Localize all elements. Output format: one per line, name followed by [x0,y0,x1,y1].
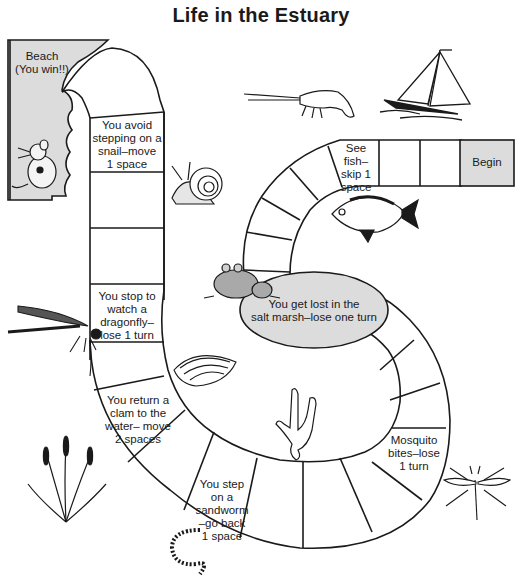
cattails-icon [28,436,106,522]
clam-label-line: You return a [98,394,178,407]
dragonfly-label-line: watch a [90,303,164,316]
marsh-label-line: salt marsh–lose one turn [244,311,384,324]
coral-icon [276,389,316,460]
marsh-label-line: You get lost in the [244,298,384,311]
sandworm-label-line: You step [184,478,260,491]
clam-label-line: water– move [98,420,178,433]
marsh-space-label: You get lost in the salt marsh–lose one … [244,298,384,324]
clam-space-label: You return a clam to the water– move 2 s… [98,394,178,446]
dragonfly-label-line: lose 1 turn [90,329,164,342]
mosquito-icon [444,466,510,520]
finish-label-line: Beach [12,50,72,63]
snail-space-label: You avoid stepping on a snail–move 1 spa… [90,119,164,171]
fish-space-label: See fish– skip 1 space [334,142,378,194]
snail-icon [172,162,222,204]
mosquito-label-line: Mosquito [386,434,442,447]
dragonfly-icon [8,306,101,376]
shrimp-icon [244,91,354,118]
sandworm-space-label: You step on a sandworm –go back 1 space [184,478,260,543]
track-outer-edge [62,48,164,300]
dragonfly-label-line: You stop to [90,290,164,303]
sandworm-label-line: 1 space [184,530,260,543]
snail-label-line: stepping on a [90,132,164,145]
snail-label-line: 1 space [90,158,164,171]
snail-label-line: snail–move [90,145,164,158]
begin-space-label: Begin [460,156,514,169]
game-board [0,0,522,584]
sandworm-label-line: –go back [184,517,260,530]
finish-label: Beach (You win!!) [12,50,72,76]
fish-label-line: See fish– [334,142,378,168]
finish-label-line: (You win!!) [12,63,72,76]
clam-label-line: clam to the [98,407,178,420]
clam-label-line: 2 spaces [98,433,178,446]
dragonfly-label-line: dragonfly– [90,316,164,329]
dragonfly-space-label: You stop to watch a dragonfly– lose 1 tu… [90,290,164,342]
mosquito-space-label: Mosquito bites–lose 1 turn [386,434,442,473]
mosquito-label-line: 1 turn [386,460,442,473]
sailboat-icon [380,50,470,120]
fish-label-line: skip 1 [334,168,378,181]
fish-label-line: space [334,181,378,194]
clam-icon [174,356,236,386]
sandworm-label-line: on a sandworm [184,491,260,517]
fish-icon [332,197,418,242]
snail-label-line: You avoid [90,119,164,132]
mosquito-label-line: bites–lose [386,447,442,460]
